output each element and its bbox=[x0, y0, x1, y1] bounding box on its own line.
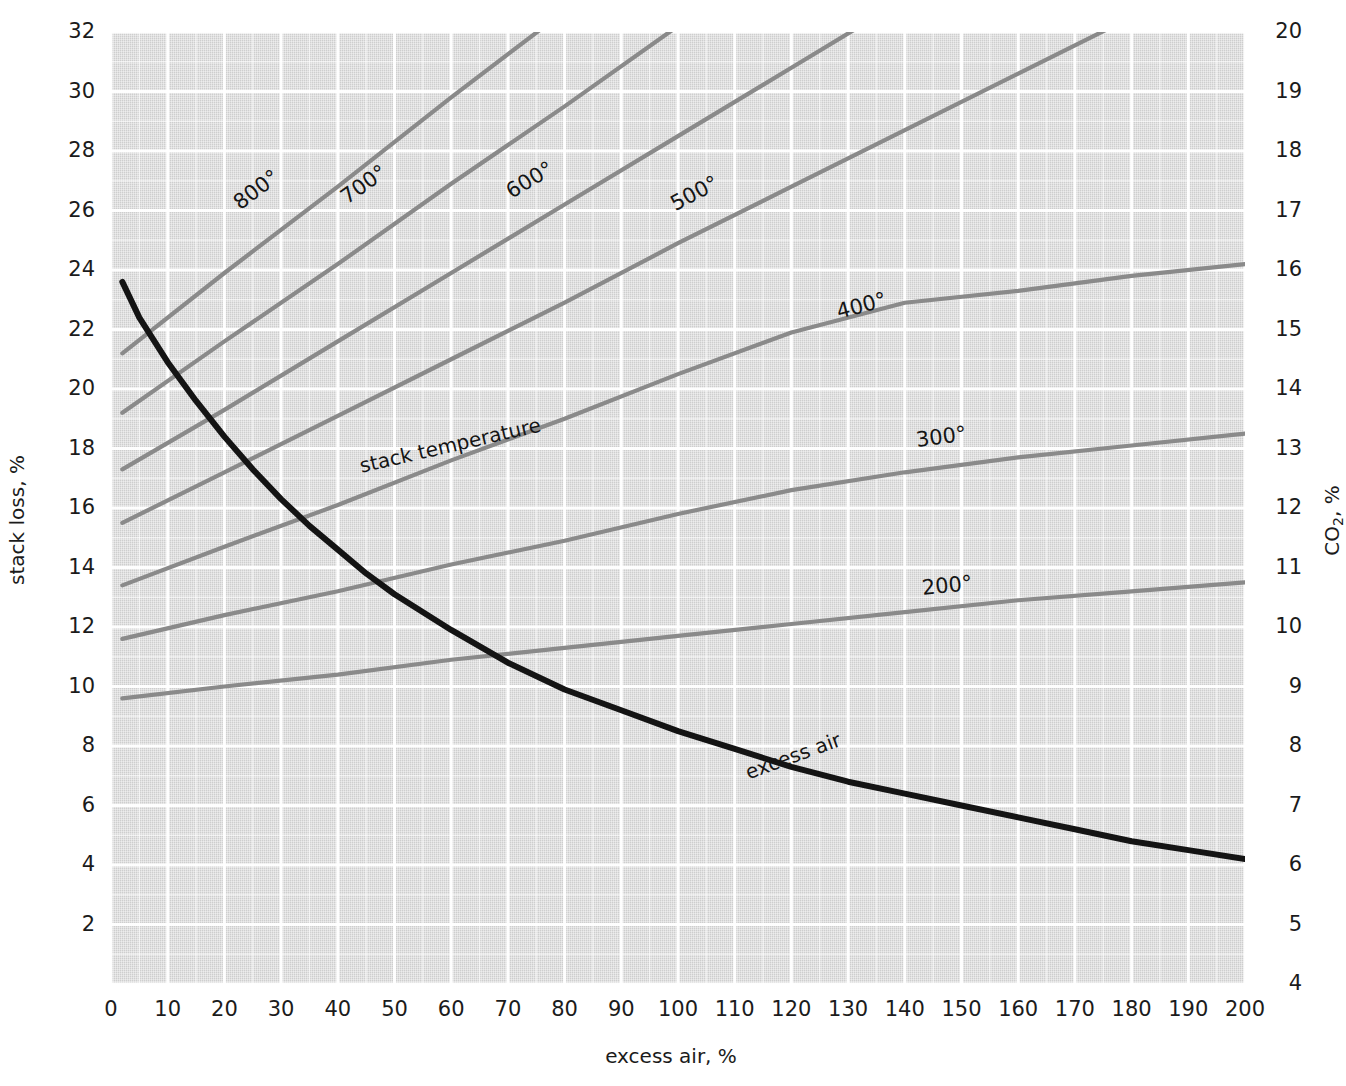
bottom-tick-200: 200 bbox=[1205, 999, 1285, 1020]
left-axis-title: stack loss, % bbox=[5, 440, 29, 600]
right-axis-title-subscript: 2 bbox=[1330, 517, 1346, 526]
right-axis-title-tail: , % bbox=[1320, 485, 1344, 517]
right-axis-title-main: CO bbox=[1320, 526, 1344, 556]
right-axis-title: CO2, % bbox=[1320, 441, 1345, 601]
bottom-axis-title: excess air, % bbox=[0, 1044, 1342, 1068]
